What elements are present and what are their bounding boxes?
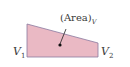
centroid-dot [58, 43, 61, 46]
v1-label: V1 [13, 45, 25, 60]
trapezoid-region [27, 24, 98, 57]
v2-label: V2 [101, 45, 113, 60]
area-label: (Area)V [60, 12, 98, 26]
trapezoid-diagram: (Area)V V1 V2 [0, 0, 130, 67]
